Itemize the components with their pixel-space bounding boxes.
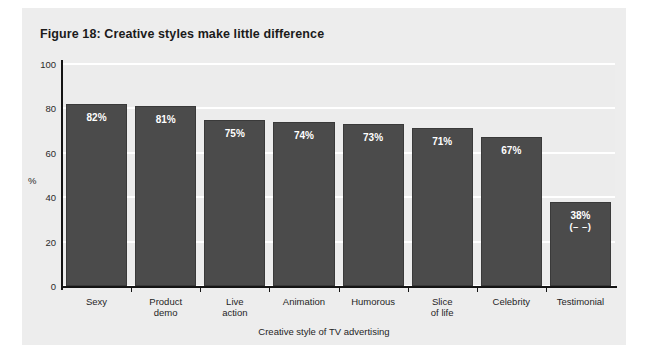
bar-group: 38%(– –) <box>546 64 615 286</box>
y-axis-tick-label: 0 <box>26 281 56 292</box>
bar-value-label: 75% <box>205 128 264 139</box>
bar-value-label: 71% <box>413 136 472 147</box>
x-axis-category-label: Productdemo <box>131 296 200 318</box>
x-axis-category-label: Liveaction <box>200 296 269 318</box>
bar-group: 82% <box>62 64 131 286</box>
bar-value-label: 73% <box>344 132 403 143</box>
y-axis-tick-label: 80 <box>26 103 56 114</box>
y-axis-tick-label: 40 <box>26 192 56 203</box>
bar-group: 73% <box>339 64 408 286</box>
bar-value-label: 74% <box>274 130 333 141</box>
figure-card: Figure 18: Creative styles make little d… <box>22 8 626 345</box>
y-axis-tick-label: 60 <box>26 147 56 158</box>
bar-significance-note: (– –) <box>551 221 610 232</box>
x-axis-category-label: Celebrity <box>477 296 546 307</box>
bar[interactable]: 82% <box>66 104 127 286</box>
x-axis-tick <box>131 286 132 292</box>
bar-value-label: 38%(– –) <box>551 210 610 232</box>
x-axis-title: Creative style of TV advertising <box>22 326 626 337</box>
bar-group: 74% <box>269 64 338 286</box>
bar[interactable]: 71% <box>412 128 473 286</box>
y-axis-tick-label: 100 <box>26 59 56 70</box>
bar[interactable]: 75% <box>204 120 265 287</box>
x-axis-category-label: Humorous <box>339 296 408 307</box>
bar-value-label: 67% <box>482 145 541 156</box>
bar[interactable]: 74% <box>273 122 334 286</box>
bar[interactable]: 38%(– –) <box>550 202 611 286</box>
x-axis-tick <box>200 286 201 292</box>
bar-group: 67% <box>477 64 546 286</box>
x-axis-category-label: Sliceof life <box>408 296 477 318</box>
x-axis-category-label: Testimonial <box>546 296 615 307</box>
x-axis-category-label: Animation <box>269 296 338 307</box>
bar-group: 71% <box>408 64 477 286</box>
x-axis-tick <box>477 286 478 292</box>
x-axis-category-label: Sexy <box>62 296 131 307</box>
x-axis-tick <box>546 286 547 292</box>
bar[interactable]: 67% <box>481 137 542 286</box>
bar[interactable]: 73% <box>343 124 404 286</box>
bar-group: 75% <box>200 64 269 286</box>
bar[interactable]: 81% <box>135 106 196 286</box>
x-axis-tick <box>269 286 270 292</box>
y-axis-tick-label: 20 <box>26 236 56 247</box>
y-axis-title: % <box>28 175 36 186</box>
figure-title: Figure 18: Creative styles make little d… <box>40 27 324 41</box>
bar-value-label: 81% <box>136 114 195 125</box>
x-axis-tick <box>408 286 409 292</box>
bar-value-label: 82% <box>67 112 126 123</box>
bar-group: 81% <box>131 64 200 286</box>
x-axis-tick <box>339 286 340 292</box>
